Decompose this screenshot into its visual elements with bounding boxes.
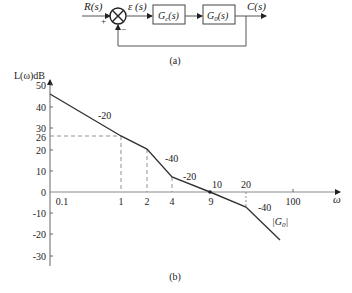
plus-sign: + <box>101 16 106 26</box>
error-label: ε (s) <box>128 0 147 13</box>
svg-text:-20: -20 <box>183 171 196 182</box>
output-label: C(s) <box>247 0 266 13</box>
svg-text:4: 4 <box>170 196 175 207</box>
svg-text:0.1: 0.1 <box>56 196 69 207</box>
magnitude-curve <box>50 94 280 240</box>
svg-text:10: 10 <box>212 179 222 190</box>
svg-text:20: 20 <box>241 179 251 190</box>
summing-junction-icon <box>110 8 126 24</box>
slope-labels: -20 -40 -20 -40 <box>98 110 271 213</box>
svg-text:0: 0 <box>41 187 46 198</box>
input-label: R(s) <box>83 0 103 13</box>
caption-a: (a) <box>169 55 180 67</box>
svg-text:2: 2 <box>145 196 150 207</box>
svg-text:-40: -40 <box>258 202 271 213</box>
svg-text:40: 40 <box>36 102 46 113</box>
svg-text:20: 20 <box>36 145 46 156</box>
svg-text:-30: -30 <box>33 251 46 262</box>
x-axis-label: ω <box>333 193 341 205</box>
svg-text:-20: -20 <box>98 110 111 121</box>
figure: R(s) + − ε (s) Gc(s) G0(s) C(s) (a) L(ω)… <box>0 0 352 293</box>
svg-text:100: 100 <box>286 196 301 207</box>
bode-plot: L(ω)dB ω 50 40 30 26 20 10 0 -10 -20 -30… <box>14 70 341 283</box>
svg-text:50: 50 <box>36 80 46 91</box>
curve-label: |G0| <box>272 216 288 229</box>
svg-text:10: 10 <box>36 166 46 177</box>
svg-text:-20: -20 <box>33 229 46 240</box>
svg-text:1: 1 <box>119 196 124 207</box>
svg-text:-10: -10 <box>33 208 46 219</box>
block-diagram: R(s) + − ε (s) Gc(s) G0(s) C(s) (a) <box>82 0 266 67</box>
svg-text:9: 9 <box>209 196 214 207</box>
minus-sign: − <box>121 24 126 34</box>
caption-b: (b) <box>169 271 181 283</box>
crossover-point <box>208 190 212 194</box>
svg-text:26: 26 <box>36 132 46 143</box>
svg-text:-40: -40 <box>165 153 178 164</box>
